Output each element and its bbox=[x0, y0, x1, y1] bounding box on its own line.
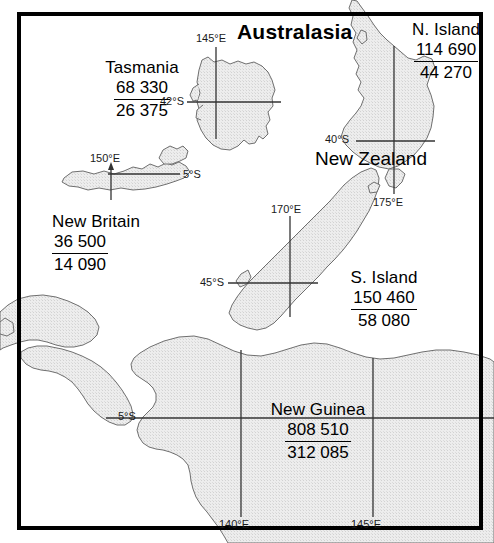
coord-label-170E-south-island: 170°E bbox=[271, 203, 301, 215]
place-label-new-guinea: New Guinea 808 510 312 085 bbox=[250, 400, 386, 463]
place-name-new-britain: New Britain bbox=[52, 212, 182, 232]
value-upper: 150 460 bbox=[351, 288, 416, 310]
coord-label-5S-new-britain: 5°S bbox=[183, 168, 201, 180]
value-upper: 808 510 bbox=[285, 420, 350, 442]
coord-label-40S-north-island: 40°S bbox=[325, 133, 349, 145]
coord-label-175E-north-island: 175°E bbox=[373, 196, 403, 208]
value-lower: 14 090 bbox=[52, 254, 108, 275]
coord-label-145E-tasmania: 145°E bbox=[196, 32, 226, 44]
place-name-s-island: S. Island bbox=[332, 268, 436, 288]
coord-label-42S-tasmania: 42°S bbox=[160, 95, 184, 107]
coord-label-45S-south-island: 45°S bbox=[200, 276, 224, 288]
value-lower: 44 270 bbox=[414, 62, 478, 83]
coord-label-5S-new-guinea: 5°S bbox=[118, 410, 136, 422]
landmass-new-guinea-west bbox=[0, 295, 133, 425]
coord-label-145E-new-guinea: 145°E bbox=[351, 518, 381, 530]
place-values-new-guinea: 808 510 312 085 bbox=[285, 420, 350, 463]
landmass-new-britain bbox=[62, 146, 190, 190]
place-name-tasmania: Tasmania bbox=[82, 58, 202, 78]
value-upper: 114 690 bbox=[414, 40, 478, 62]
place-label-new-britain: New Britain 36 500 14 090 bbox=[52, 212, 182, 275]
place-values-new-britain: 36 500 14 090 bbox=[52, 232, 108, 275]
coord-label-140E-new-guinea: 140°E bbox=[219, 518, 249, 530]
map-page: Australasia Tasmania 68 330 26 375 N. Is… bbox=[0, 0, 494, 543]
place-values-s-island: 150 460 58 080 bbox=[351, 288, 416, 331]
place-label-n-island: N. Island 114 690 44 270 bbox=[398, 20, 494, 83]
region-label-new-zealand: New Zealand bbox=[315, 148, 427, 170]
value-lower: 312 085 bbox=[285, 442, 350, 463]
value-upper: 36 500 bbox=[52, 232, 108, 254]
value-lower: 58 080 bbox=[351, 310, 416, 331]
place-name-n-island: N. Island bbox=[398, 20, 494, 40]
place-label-tasmania: Tasmania 68 330 26 375 bbox=[82, 58, 202, 121]
place-name-new-guinea: New Guinea bbox=[250, 400, 386, 420]
page-title: Australasia bbox=[237, 20, 352, 44]
place-values-n-island: 114 690 44 270 bbox=[414, 40, 478, 83]
landmass-tasmania bbox=[190, 57, 275, 150]
coord-label-150E-new-britain: 150°E bbox=[90, 152, 120, 164]
place-label-s-island: S. Island 150 460 58 080 bbox=[332, 268, 436, 331]
